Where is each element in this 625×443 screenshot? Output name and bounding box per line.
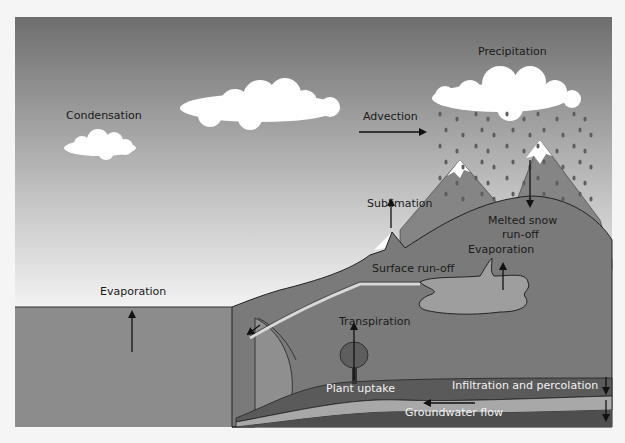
rain-drop <box>555 148 558 153</box>
rain-drop <box>474 111 477 116</box>
rain-drop <box>438 111 441 116</box>
label-precipitation: Precipitation <box>478 45 547 58</box>
rain-drop <box>486 180 489 185</box>
rain-drop <box>444 191 447 196</box>
rain-drop <box>522 180 525 185</box>
rain-drop <box>474 143 477 148</box>
rain-drop <box>542 191 545 196</box>
rain-drop <box>536 111 539 116</box>
rain-drop <box>561 132 564 137</box>
label-groundwater-flow: Groundwater flow <box>405 406 503 419</box>
rain-drop <box>589 196 592 201</box>
rain-drop <box>486 116 489 121</box>
rain-drop <box>572 175 575 180</box>
rain-drop <box>492 164 495 169</box>
rain-drop <box>461 164 464 169</box>
rain-drop <box>455 180 458 185</box>
rain-drop <box>492 196 495 201</box>
label-melted-snow-runoff: run-off <box>502 228 539 241</box>
rain-drop <box>555 180 558 185</box>
label-evaporation-sea: Evaporation <box>100 285 166 298</box>
rain-drop <box>528 132 531 137</box>
rain-drop <box>589 164 592 169</box>
rain-drop <box>486 148 489 153</box>
rain-drop <box>444 159 447 164</box>
rain-drop <box>542 127 545 132</box>
rain-drop <box>511 127 514 132</box>
rain-drop <box>461 132 464 137</box>
rain-drop <box>480 127 483 132</box>
rain-drop <box>572 111 575 116</box>
rain-drop <box>536 175 539 180</box>
rain-drop <box>444 127 447 132</box>
water-cycle-diagram: Precipitation Condensation Advection Sub… <box>0 0 625 443</box>
rain-drop <box>536 143 539 148</box>
rain-drop <box>583 116 586 121</box>
label-transpiration: Transpiration <box>338 315 410 328</box>
rain-drop <box>542 159 545 164</box>
rain-drop <box>480 159 483 164</box>
rain-drop <box>480 191 483 196</box>
label-condensation: Condensation <box>66 109 142 122</box>
rain-drop <box>583 180 586 185</box>
label-sublimation: Sublimation <box>367 197 433 210</box>
rain-drop <box>583 148 586 153</box>
rain-drop <box>578 159 581 164</box>
rain-drop <box>511 159 514 164</box>
rain-drop <box>438 143 441 148</box>
rain-drop <box>561 164 564 169</box>
rain-drop <box>455 148 458 153</box>
rain-drop <box>561 196 564 201</box>
rain-drop <box>578 127 581 132</box>
label-evaporation-lake: Evaporation <box>468 243 534 256</box>
rain-drop <box>578 191 581 196</box>
rain-drop <box>511 191 514 196</box>
rain-drop <box>505 111 508 116</box>
rain-drop <box>522 148 525 153</box>
rain-drop <box>522 116 525 121</box>
rain-drop <box>505 175 508 180</box>
rain-drop <box>555 116 558 121</box>
rain-drop <box>589 132 592 137</box>
rain-drop <box>572 143 575 148</box>
rain-drop <box>474 175 477 180</box>
rain-drop <box>505 143 508 148</box>
label-melted-snow: Melted snow <box>488 214 557 227</box>
label-plant-uptake: Plant uptake <box>326 382 395 395</box>
label-surface-runoff: Surface run-off <box>372 262 455 275</box>
rain-drop <box>438 175 441 180</box>
label-advection: Advection <box>363 110 418 123</box>
sea <box>15 307 255 427</box>
rain-drop <box>492 132 495 137</box>
rain-drop <box>461 196 464 201</box>
label-infiltration: Infiltration and percolation <box>452 379 598 392</box>
rain-drop <box>455 116 458 121</box>
